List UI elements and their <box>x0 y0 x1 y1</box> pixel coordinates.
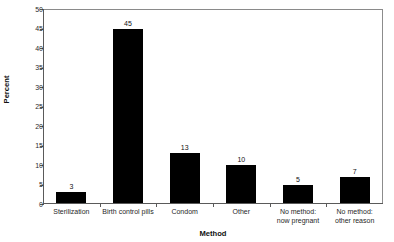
x-tick-mark <box>326 204 327 207</box>
x-category-label: Birth control pills <box>100 208 157 217</box>
y-tick-label: 0 <box>23 201 43 208</box>
bar-value-label: 5 <box>296 176 300 183</box>
bar <box>170 153 200 204</box>
x-tick-mark <box>100 204 101 207</box>
bar-value-label: 10 <box>237 156 245 163</box>
x-category-label: No method:other reason <box>326 208 383 225</box>
x-category-label-line: Birth control pills <box>100 208 157 217</box>
bar <box>340 177 370 204</box>
x-category-label-line: Sterilization <box>43 208 100 217</box>
y-tick-label: 30 <box>23 84 43 91</box>
bar-value-label: 45 <box>124 20 132 27</box>
y-tick-label: 20 <box>23 123 43 130</box>
bar-group: 45 <box>100 9 157 204</box>
x-category-label-line: Other <box>213 208 270 217</box>
x-category-label: No method:now pregnant <box>270 208 327 225</box>
y-tick-label: 15 <box>23 142 43 149</box>
bar <box>113 29 143 205</box>
x-category-label-line: No method: <box>270 208 327 217</box>
bar-value-label: 3 <box>69 183 73 190</box>
bar-group: 5 <box>270 9 327 204</box>
bar-value-label: 13 <box>181 144 189 151</box>
y-tick-label: 10 <box>23 162 43 169</box>
bar-group: 10 <box>213 9 270 204</box>
x-tick-mark <box>270 204 271 207</box>
y-tick-label: 25 <box>23 103 43 110</box>
bar <box>283 185 313 205</box>
y-tick-label: 35 <box>23 64 43 71</box>
x-category-label-line: No method: <box>326 208 383 217</box>
x-category-label-line: now pregnant <box>270 217 327 226</box>
bar-group: 3 <box>43 9 100 204</box>
x-category-label-line: other reason <box>326 217 383 226</box>
bar-group: 7 <box>326 9 383 204</box>
x-tick-mark <box>156 204 157 207</box>
y-axis-title: Percent <box>2 60 11 120</box>
bar-group: 13 <box>156 9 213 204</box>
x-tick-mark <box>213 204 214 207</box>
bar-chart: Figure 1. Contraceptive Use Among U.S. W… <box>0 0 394 242</box>
y-tick-label: 40 <box>23 45 43 52</box>
y-tick-label: 45 <box>23 25 43 32</box>
x-category-label: Other <box>213 208 270 217</box>
y-tick-label: 50 <box>23 6 43 13</box>
x-category-label-line: Condom <box>156 208 213 217</box>
y-tick-label: 5 <box>23 181 43 188</box>
x-axis-title: Method <box>43 229 383 238</box>
bars-layer: 345131057 <box>43 9 383 204</box>
x-category-label: Condom <box>156 208 213 217</box>
bar <box>226 165 256 204</box>
y-axis-ticks: 05101520253035404550 <box>0 0 43 242</box>
x-category-label: Sterilization <box>43 208 100 217</box>
bar-value-label: 7 <box>353 168 357 175</box>
